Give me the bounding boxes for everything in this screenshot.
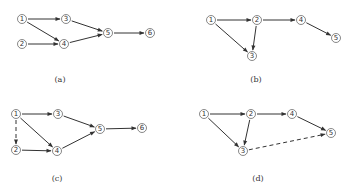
arrow-3-to-5 bbox=[72, 21, 103, 31]
panel-a: 123456(a) bbox=[18, 15, 155, 85]
panel-b: 12345(b) bbox=[207, 16, 341, 85]
arrow-4-to-5 bbox=[62, 132, 94, 149]
node-label: 3 bbox=[64, 15, 68, 23]
node-label: 2 bbox=[20, 40, 24, 48]
arrow-1-to-4 bbox=[27, 22, 59, 41]
arrow-4-to-5 bbox=[297, 117, 325, 131]
node-label: 5 bbox=[329, 129, 333, 137]
panel-caption: (a) bbox=[54, 75, 65, 84]
arrow-2-to-4 bbox=[22, 150, 51, 151]
node-2: 2 bbox=[247, 110, 256, 119]
panel-c: 123456(c) bbox=[12, 110, 147, 184]
node-label: 2 bbox=[255, 16, 259, 24]
node-2: 2 bbox=[12, 146, 21, 155]
node-5: 5 bbox=[104, 29, 113, 38]
node-2: 2 bbox=[253, 16, 262, 25]
node-1: 1 bbox=[200, 110, 209, 119]
node-4: 4 bbox=[53, 147, 62, 156]
node-label: 1 bbox=[209, 16, 213, 24]
arrow-5-to-6 bbox=[106, 128, 136, 129]
node-6: 6 bbox=[138, 124, 147, 133]
node-label: 1 bbox=[14, 110, 18, 118]
arrow-2-to-3 bbox=[253, 26, 256, 50]
node-3: 3 bbox=[62, 15, 71, 24]
node-2: 2 bbox=[18, 40, 27, 49]
node-label: 2 bbox=[14, 146, 18, 154]
panel-caption: (b) bbox=[250, 75, 261, 84]
diagram-canvas: 123456(a)12345(b)123456(c)12345(d) bbox=[0, 0, 348, 196]
node-label: 5 bbox=[106, 29, 110, 37]
node-1: 1 bbox=[12, 110, 21, 119]
node-3: 3 bbox=[239, 147, 248, 156]
node-label: 1 bbox=[20, 15, 24, 23]
node-label: 4 bbox=[62, 40, 67, 48]
node-3: 3 bbox=[248, 52, 257, 61]
node-label: 5 bbox=[98, 125, 102, 133]
node-1: 1 bbox=[207, 16, 216, 25]
node-5: 5 bbox=[332, 34, 341, 43]
node-4: 4 bbox=[297, 16, 306, 25]
arrow-4-to-5 bbox=[306, 23, 330, 36]
arrow-1-to-3 bbox=[208, 118, 238, 147]
network-diagram-figure: 123456(a)12345(b)123456(c)12345(d) bbox=[0, 0, 348, 196]
node-5: 5 bbox=[327, 129, 336, 138]
panel-d: 12345(d) bbox=[200, 110, 336, 184]
node-label: 5 bbox=[334, 34, 338, 42]
arrow-2-to-3 bbox=[244, 120, 249, 145]
arrow-3-to-5 bbox=[64, 116, 95, 127]
node-5: 5 bbox=[96, 125, 105, 134]
node-label: 3 bbox=[241, 147, 245, 155]
arrow-1-to-3 bbox=[216, 24, 248, 52]
node-label: 2 bbox=[249, 110, 253, 118]
node-label: 4 bbox=[55, 147, 60, 155]
node-1: 1 bbox=[18, 15, 27, 24]
node-label: 6 bbox=[140, 124, 145, 132]
node-4: 4 bbox=[288, 110, 297, 119]
node-label: 4 bbox=[299, 16, 304, 24]
node-label: 1 bbox=[202, 110, 206, 118]
node-4: 4 bbox=[60, 40, 69, 49]
node-label: 4 bbox=[290, 110, 295, 118]
node-label: 6 bbox=[148, 29, 153, 37]
arrow-4-to-5 bbox=[70, 34, 102, 42]
panel-caption: (d) bbox=[252, 174, 263, 183]
node-label: 3 bbox=[56, 110, 60, 118]
dummy-arrow-3-to-5 bbox=[249, 134, 325, 150]
node-6: 6 bbox=[146, 29, 155, 38]
panel-caption: (c) bbox=[52, 174, 63, 183]
arrow-1-to-4 bbox=[20, 118, 52, 147]
node-3: 3 bbox=[54, 110, 63, 119]
node-label: 3 bbox=[250, 52, 254, 60]
